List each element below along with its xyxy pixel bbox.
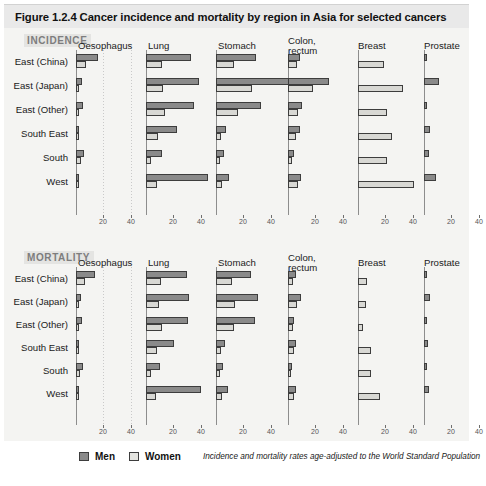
axis-tick-label: 20 [308, 218, 322, 225]
bar-men [216, 150, 224, 157]
panel-mortality: MORTALITY East (China)East (Japan)East (… [0, 245, 473, 441]
column-header-colon: Colon,rectum [288, 253, 317, 272]
bar-men [424, 78, 439, 85]
bar-men [424, 294, 430, 301]
column-header-oesophagus: Oesophagus [78, 258, 132, 268]
bar-women [288, 85, 313, 92]
bar-women [76, 157, 81, 164]
bar-men [216, 294, 258, 301]
legend-swatch-women-icon [129, 452, 139, 461]
bar-men [76, 174, 79, 181]
bar-women [358, 370, 371, 377]
axis-tick-label: 20 [444, 428, 458, 435]
bar-women [76, 370, 80, 377]
legend-label-women: Women [145, 451, 181, 462]
bar-women [76, 278, 85, 285]
panel-incidence: INCIDENCE East (China)East (Japan)East (… [0, 28, 473, 245]
bar-women [358, 301, 366, 308]
chart-legend: Men Women Incidence and mortality rates … [4, 441, 469, 482]
axis-tick-label: 20 [166, 428, 180, 435]
column-header-prostate: Prostate [424, 41, 460, 51]
region-label-south-east: South East [0, 342, 68, 353]
bar-men [216, 340, 225, 347]
gridline [131, 267, 132, 425]
bar-women [146, 157, 151, 164]
bar-men [288, 363, 292, 370]
bar-women [146, 301, 159, 308]
axis-tick-label: 40 [264, 428, 278, 435]
region-label-south: South [0, 152, 68, 163]
bar-men [424, 150, 429, 157]
column-header-prostate: Prostate [424, 258, 460, 268]
bar-men [76, 102, 83, 109]
bar-men [216, 271, 251, 278]
bar-women [288, 181, 298, 188]
bar-women [216, 133, 221, 140]
bar-women [146, 347, 157, 354]
axis-tick-label: 40 [472, 218, 486, 225]
axis-tick-label: 40 [194, 428, 208, 435]
bar-men [424, 54, 427, 61]
bar-men [216, 363, 223, 370]
region-label-south-east: South East [0, 128, 68, 139]
bar-men [146, 54, 191, 61]
region-label-east-other: East (Other) [0, 104, 68, 115]
axis-tick-label: 20 [96, 428, 110, 435]
bar-women [146, 370, 151, 377]
bar-men [76, 78, 82, 85]
bar-men [76, 363, 83, 370]
axis-tick-label: 40 [472, 428, 486, 435]
bar-men [424, 174, 436, 181]
bar-men [76, 294, 81, 301]
bar-women [76, 393, 79, 400]
bar-men [146, 271, 187, 278]
column-header-breast: Breast [358, 41, 386, 51]
bar-men [146, 294, 189, 301]
column-header-lung: Lung [148, 258, 169, 268]
bar-men [216, 174, 229, 181]
legend-swatch-men-icon [79, 452, 89, 461]
bar-women [216, 301, 235, 308]
bar-women [146, 133, 158, 140]
bar-women [146, 278, 161, 285]
bar-women [216, 370, 220, 377]
bar-men [288, 54, 300, 61]
bar-women [76, 347, 79, 354]
bar-men [76, 126, 79, 133]
legend-label-men: Men [95, 451, 115, 462]
bar-men [216, 126, 226, 133]
bar-men [424, 340, 428, 347]
bar-men [424, 126, 430, 133]
bar-women [358, 393, 380, 400]
region-label-south: South [0, 365, 68, 376]
bar-men [288, 150, 294, 157]
bar-women [288, 324, 293, 331]
bar-men [424, 386, 429, 393]
bar-men [216, 317, 255, 324]
figure-title-bar: Figure 1.2.4 Cancer incidence and mortal… [4, 4, 469, 29]
bar-women [146, 181, 157, 188]
bar-women [358, 61, 384, 68]
bar-women [216, 181, 222, 188]
bar-men [424, 271, 427, 278]
axis-tick-label: 20 [236, 218, 250, 225]
bar-men [288, 102, 302, 109]
bar-women [146, 85, 163, 92]
bar-women [288, 109, 298, 116]
bar-men [288, 271, 296, 278]
axis-tick-label: 40 [264, 218, 278, 225]
bar-men [76, 317, 82, 324]
incidence-region-labels: East (China)East (Japan)East (Other)Sout… [0, 28, 72, 245]
bar-women [216, 393, 222, 400]
bar-women [358, 324, 363, 331]
bar-women [76, 109, 79, 116]
region-label-east-china: East (China) [0, 56, 68, 67]
axis-tick-label: 20 [378, 218, 392, 225]
region-label-west: West [0, 388, 68, 399]
bar-women [76, 85, 79, 92]
axis-tick-label: 40 [124, 428, 138, 435]
mortality-region-labels: East (China)East (Japan)East (Other)Sout… [0, 245, 72, 441]
bar-men [216, 54, 256, 61]
bar-women [288, 393, 294, 400]
bar-men [288, 78, 329, 85]
